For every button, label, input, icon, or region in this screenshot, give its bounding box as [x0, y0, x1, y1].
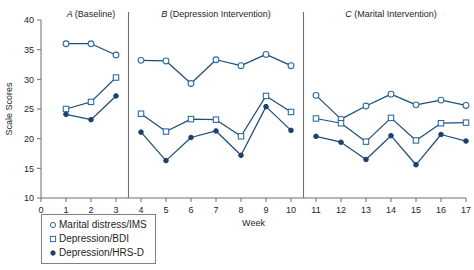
legend-item-depression-bdi: Depression/BDI [47, 232, 147, 246]
panel-title-a: A (Baseline) [66, 9, 116, 19]
data-point-marital-distress-ims [413, 102, 419, 108]
data-point-depression-bdi [188, 116, 193, 121]
panel-title-c: C (Marital Intervention) [345, 9, 437, 19]
legend-item-marital-distress-ims: Marital distress/IMS [47, 218, 147, 232]
data-point-marital-distress-ims [213, 57, 219, 63]
y-tick-label: 25 [24, 104, 34, 114]
data-point-marital-distress-ims [288, 63, 294, 69]
x-tick-label: 12 [336, 205, 346, 215]
x-tick-label: 17 [461, 205, 471, 215]
y-tick-label: 30 [24, 75, 34, 85]
y-axis-title: Scale Scores [4, 82, 14, 136]
x-tick-label: 8 [238, 205, 243, 215]
data-point-marital-distress-ims [188, 81, 194, 87]
data-point-depression-hrs-d [164, 158, 169, 163]
legend-item-depression-hrs-d: Depression/HRS-D [47, 246, 147, 260]
legend-label: Marital distress/IMS [59, 219, 147, 231]
data-point-depression-bdi [438, 121, 443, 126]
data-point-depression-hrs-d [414, 162, 419, 167]
x-tick-label: 5 [163, 205, 168, 215]
data-point-depression-bdi [263, 93, 268, 98]
x-tick-label: 16 [436, 205, 446, 215]
data-point-marital-distress-ims [238, 63, 244, 69]
legend-label: Depression/BDI [59, 233, 129, 245]
x-tick-label: 11 [311, 205, 320, 215]
data-point-depression-bdi [338, 121, 343, 126]
data-point-marital-distress-ims [138, 57, 144, 63]
data-point-depression-hrs-d [464, 139, 469, 144]
x-tick-label: 14 [386, 205, 396, 215]
data-point-depression-hrs-d [364, 157, 369, 162]
data-point-marital-distress-ims [63, 41, 69, 47]
data-point-depression-bdi [213, 117, 218, 122]
y-tick-label: 10 [24, 193, 34, 203]
data-point-depression-hrs-d [64, 112, 69, 117]
data-point-marital-distress-ims [113, 52, 119, 58]
data-point-marital-distress-ims [363, 103, 369, 109]
data-point-depression-hrs-d [314, 134, 319, 139]
data-point-marital-distress-ims [88, 41, 94, 47]
chart-legend: Marital distress/IMS Depression/BDI Depr… [41, 214, 156, 264]
chart-figure: 1015202530354001234567891011121314151617… [0, 0, 474, 270]
filled-circle-icon [47, 249, 59, 257]
data-point-depression-hrs-d [139, 130, 144, 135]
x-tick-label: 7 [213, 205, 218, 215]
data-point-depression-hrs-d [339, 140, 344, 145]
data-point-marital-distress-ims [313, 92, 319, 98]
data-point-depression-bdi [63, 106, 68, 111]
x-axis-title: Week [242, 218, 265, 228]
x-tick-label: 15 [411, 205, 421, 215]
data-point-depression-bdi [388, 115, 393, 120]
data-point-depression-bdi [463, 120, 468, 125]
data-point-marital-distress-ims [388, 91, 394, 97]
data-point-marital-distress-ims [438, 97, 444, 103]
data-point-marital-distress-ims [463, 103, 469, 109]
panel-title-b: B (Depression Intervention) [161, 9, 271, 19]
x-tick-label: 6 [188, 205, 193, 215]
y-tick-label: 35 [24, 45, 34, 55]
data-point-depression-bdi [113, 75, 118, 80]
legend-label: Depression/HRS-D [59, 247, 144, 259]
data-point-depression-bdi [363, 139, 368, 144]
data-point-depression-bdi [138, 111, 143, 116]
data-point-depression-bdi [88, 99, 93, 104]
data-point-depression-hrs-d [239, 153, 244, 158]
data-point-depression-hrs-d [89, 117, 94, 122]
x-tick-label: 10 [286, 205, 296, 215]
x-tick-label: 13 [361, 205, 371, 215]
y-tick-label: 20 [24, 134, 34, 144]
data-point-depression-hrs-d [264, 104, 269, 109]
y-tick-label: 15 [24, 164, 34, 174]
data-point-depression-hrs-d [189, 135, 194, 140]
data-point-depression-hrs-d [389, 133, 394, 138]
data-point-depression-hrs-d [214, 129, 219, 134]
x-tick-label: 9 [263, 205, 268, 215]
data-point-depression-bdi [313, 116, 318, 121]
data-point-depression-bdi [238, 134, 243, 139]
data-point-depression-hrs-d [114, 94, 119, 99]
data-point-depression-hrs-d [289, 128, 294, 133]
y-tick-label: 40 [24, 15, 34, 25]
data-point-depression-bdi [288, 109, 293, 114]
data-point-marital-distress-ims [163, 58, 169, 64]
open-square-icon [47, 235, 59, 243]
series-line-depression-hrs-d-panel-c [316, 135, 466, 165]
data-point-depression-bdi [413, 138, 418, 143]
data-point-depression-bdi [163, 129, 168, 134]
data-point-marital-distress-ims [263, 52, 269, 58]
open-circle-icon [47, 221, 59, 229]
data-point-depression-hrs-d [439, 132, 444, 137]
